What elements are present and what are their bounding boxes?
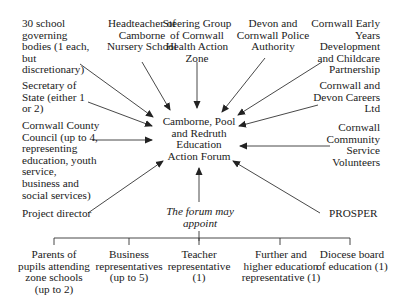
appoint-teacher: Teacher representative (1) xyxy=(154,249,244,284)
arrow-police-authority xyxy=(222,58,265,112)
member-prosper: PROSPER xyxy=(329,208,378,220)
member-secretary-of-state: Secretary of State (either 1 or 2) xyxy=(22,80,85,115)
appoint-diocese: Diocese board of education (1) xyxy=(308,249,396,272)
member-project-director: Project director xyxy=(22,208,91,220)
appoint-label: The forum may appoint xyxy=(150,206,250,229)
forum-center-node: Camborne, Pool and Redruth Education Act… xyxy=(146,116,252,162)
member-steering-group: Steering Group of Cornwall Health Action… xyxy=(152,18,242,64)
member-volunteers: Cornwall Community Service Volunteers xyxy=(300,122,380,168)
arrow-governing-bodies xyxy=(80,64,153,117)
member-careers: Cornwall and Devon Careers Ltd xyxy=(300,80,380,115)
arrow-headteacher xyxy=(142,62,170,110)
member-governing-bodies: 30 school governing bodies (1 each, but … xyxy=(22,18,89,76)
member-early-years: Cornwall Early Years Development and Chi… xyxy=(300,18,380,76)
member-county-council: Cornwall County Council (up to 4, repres… xyxy=(22,120,99,201)
